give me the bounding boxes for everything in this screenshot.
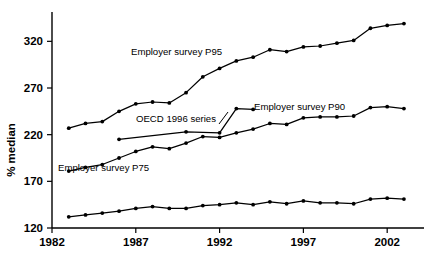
data-point [352, 202, 356, 206]
data-point [234, 107, 238, 111]
data-point [268, 200, 272, 204]
y-tick-label: 120 [24, 222, 43, 234]
data-point [301, 199, 305, 203]
data-point [234, 59, 238, 63]
x-tick-label: 1992 [207, 236, 233, 248]
data-point [67, 126, 71, 130]
data-point [335, 41, 339, 45]
x-tick-label: 1997 [291, 236, 317, 248]
data-point [167, 207, 171, 211]
data-point [134, 150, 138, 154]
series-employer-survey-p75 [67, 196, 406, 218]
x-tick-label: 2002 [374, 236, 400, 248]
data-point [369, 197, 373, 201]
y-axis-ticks [47, 41, 52, 228]
data-point [251, 55, 255, 59]
data-point [184, 130, 188, 134]
data-point [117, 209, 121, 213]
data-point [167, 147, 171, 151]
data-point [84, 122, 88, 126]
data-point [184, 91, 188, 95]
data-point [234, 201, 238, 205]
data-point [402, 22, 406, 26]
y-tick-label: 270 [24, 82, 43, 94]
series-label-oecd-1996-series: OECD 1996 series [136, 113, 216, 124]
data-point [285, 50, 289, 54]
series-label-employer-survey-p95: Employer survey P95 [131, 46, 222, 57]
data-point [385, 105, 389, 109]
data-point [218, 131, 222, 135]
data-point [167, 101, 171, 105]
data-point [67, 215, 71, 219]
x-tick-label: 1982 [39, 236, 65, 248]
data-point [385, 24, 389, 28]
series-group [67, 22, 406, 219]
data-point [100, 120, 104, 124]
y-tick-label: 170 [24, 175, 43, 187]
x-axis-tick-labels: 19821987199219972002 [39, 236, 400, 248]
data-point [352, 39, 356, 43]
series-employer-survey-p95 [67, 22, 406, 130]
data-point [134, 102, 138, 106]
x-axis-ticks [52, 228, 387, 233]
data-point [268, 48, 272, 52]
data-point [268, 122, 272, 126]
data-point [234, 131, 238, 135]
data-point [318, 44, 322, 48]
data-point [369, 26, 373, 30]
data-point [151, 205, 155, 209]
data-point [218, 136, 222, 140]
data-point [151, 100, 155, 104]
data-point [251, 127, 255, 131]
data-point [301, 45, 305, 49]
data-point [402, 107, 406, 111]
data-point [184, 141, 188, 145]
data-point [218, 67, 222, 71]
data-point [201, 135, 205, 139]
y-tick-label: 220 [24, 129, 43, 141]
data-point [335, 201, 339, 205]
data-point [218, 203, 222, 207]
data-point [301, 116, 305, 120]
data-point [117, 156, 121, 160]
data-point [151, 145, 155, 149]
series-label-employer-survey-p75: Employer survey P75 [58, 162, 149, 173]
data-point [369, 106, 373, 110]
series-label-employer-survey-p90: Employer survey P90 [254, 101, 345, 112]
data-point [251, 203, 255, 207]
y-axis-tick-labels: 120170220270320 [24, 35, 43, 234]
data-point [318, 201, 322, 205]
data-point [402, 197, 406, 201]
data-point [84, 213, 88, 217]
data-point [134, 207, 138, 211]
data-point [201, 204, 205, 208]
data-point [352, 114, 356, 118]
x-tick-label: 1987 [123, 236, 149, 248]
data-point [285, 123, 289, 127]
chart-container: 120170220270320 19821987199219972002 % m… [0, 0, 431, 255]
data-point [335, 115, 339, 119]
data-point [184, 207, 188, 211]
data-point [100, 211, 104, 215]
y-axis-title: % median [5, 123, 17, 177]
data-point [385, 196, 389, 200]
data-point [285, 202, 289, 206]
line-chart: 120170220270320 19821987199219972002 % m… [0, 0, 431, 255]
data-point [117, 137, 121, 141]
data-point [318, 115, 322, 119]
data-point [117, 109, 121, 113]
data-point [201, 75, 205, 79]
y-tick-label: 320 [24, 35, 43, 47]
series-annotations: Employer survey P95Employer survey P90Em… [58, 46, 345, 173]
